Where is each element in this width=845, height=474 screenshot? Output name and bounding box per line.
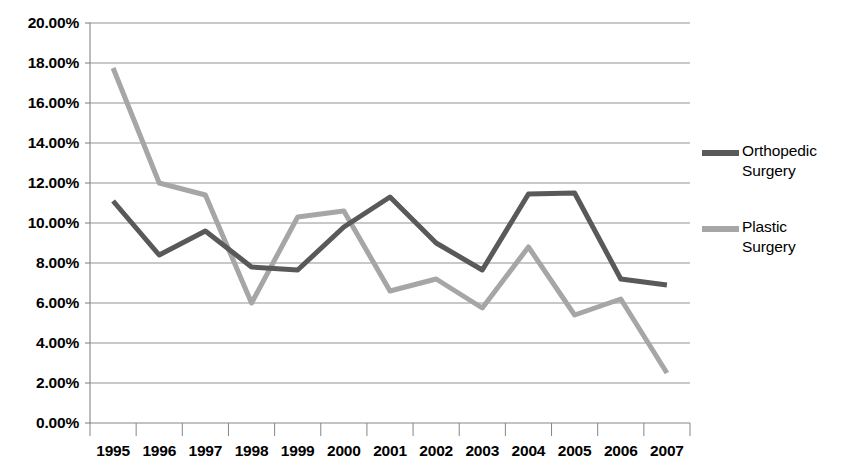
chart-plot-area [0, 0, 845, 474]
x-axis-tick-label: 1998 [227, 443, 277, 459]
y-axis-tick-label: 8.00% [1, 255, 79, 271]
legend-label-plastic-surgery: Plastic Surgery [742, 217, 796, 257]
y-axis-tick-label: 6.00% [1, 295, 79, 311]
series-line-plastic-surgery [113, 68, 667, 373]
x-axis-tick-label: 2005 [550, 443, 600, 459]
y-axis-tick-label: 20.00% [1, 15, 79, 31]
series-line-orthopedic-surgery [113, 193, 667, 285]
x-axis-tick-label: 1999 [273, 443, 323, 459]
y-axis-tick-label: 14.00% [1, 135, 79, 151]
x-axis-tick-label: 1996 [134, 443, 184, 459]
y-axis-tick-label: 0.00% [1, 415, 79, 431]
y-axis-tick-label: 18.00% [1, 55, 79, 71]
x-axis-tick-label: 2001 [365, 443, 415, 459]
y-axis-tick-label: 12.00% [1, 175, 79, 191]
x-axis-tick-label: 2002 [411, 443, 461, 459]
legend-swatch-plastic-surgery [702, 226, 739, 232]
y-axis-tick-label: 2.00% [1, 375, 79, 391]
x-axis-tick-label: 2004 [503, 443, 553, 459]
x-axis-tick-label: 2000 [319, 443, 369, 459]
y-axis-tick-label: 16.00% [1, 95, 79, 111]
y-axis-ticks [85, 23, 90, 423]
x-axis-tick-label: 2003 [457, 443, 507, 459]
chart-svg [0, 0, 845, 474]
line-chart: 0.00%2.00%4.00%6.00%8.00%10.00%12.00%14.… [0, 0, 845, 474]
x-axis-tick-label: 2006 [596, 443, 646, 459]
x-axis-ticks [90, 423, 690, 436]
x-axis-tick-label: 2007 [642, 443, 692, 459]
legend-swatch-orthopedic-surgery [702, 150, 739, 156]
y-axis-tick-label: 10.00% [1, 215, 79, 231]
legend-label-orthopedic-surgery: Orthopedic Surgery [742, 141, 817, 181]
x-axis-tick-label: 1997 [180, 443, 230, 459]
gridlines [90, 23, 690, 423]
x-axis-tick-label: 1995 [88, 443, 138, 459]
y-axis-tick-label: 4.00% [1, 335, 79, 351]
